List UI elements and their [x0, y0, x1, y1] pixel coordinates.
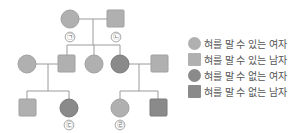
legend-label: 혀를 말 수 있는 남자: [204, 52, 286, 67]
legend-item-cannot-roll-female: 혀를 말 수 없는 여자: [188, 67, 286, 83]
legend-item-cannot-roll-male: 혀를 말 수 없는 남자: [188, 83, 286, 99]
mark-gen1-male: ㉡: [111, 32, 122, 43]
gen3-male-affected-node: [150, 99, 167, 116]
legend-label: 혀를 말 수 없는 여자: [204, 68, 286, 83]
gen2-male-node: [58, 55, 75, 72]
mark-gen3-female-right: ㉣: [115, 120, 126, 131]
gen2-female-affected-node: [111, 55, 129, 73]
legend-label: 혀를 말 수 있는 여자: [204, 36, 286, 51]
legend-label: 혀를 말 수 없는 남자: [204, 84, 286, 99]
gen3-female-node: [111, 99, 129, 117]
gen2-spouse-male-node: [151, 55, 168, 72]
square-dark-icon: [188, 85, 201, 98]
circle-dark-icon: [188, 69, 201, 82]
gen3-male-node: [19, 99, 36, 116]
gen1-male-node: [107, 10, 124, 27]
gen2-female-node: [85, 55, 103, 73]
legend: 혀를 말 수 있는 여자 혀를 말 수 있는 남자 혀를 말 수 없는 여자 혀…: [188, 35, 286, 99]
mark-gen3-female-left: ㉢: [64, 120, 75, 131]
square-light-icon: [188, 53, 201, 66]
gen2-spouse-female-node: [18, 55, 36, 73]
gen1-female-node: [61, 10, 79, 28]
legend-item-can-roll-male: 혀를 말 수 있는 남자: [188, 51, 286, 67]
legend-item-can-roll-female: 혀를 말 수 있는 여자: [188, 35, 286, 51]
mark-gen1-female: ㉠: [65, 32, 76, 43]
circle-light-icon: [188, 37, 201, 50]
gen3-female-affected-node: [60, 99, 78, 117]
